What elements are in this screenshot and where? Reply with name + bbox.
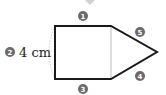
marker-3: 3 <box>78 84 88 94</box>
svg-text:1: 1 <box>81 13 86 21</box>
marker-5: 5 <box>135 27 145 37</box>
svg-text:5: 5 <box>138 29 143 37</box>
marker-1: 1 <box>78 11 88 21</box>
marker-4: 4 <box>135 71 145 81</box>
svg-text:3: 3 <box>81 86 86 94</box>
shape-diagram: 1 2 4 cm 3 4 5 <box>0 0 166 95</box>
svg-text:2: 2 <box>8 49 13 57</box>
marker-2: 2 <box>5 47 15 57</box>
svg-text:4: 4 <box>138 73 143 81</box>
top-arrow-icon <box>85 0 95 5</box>
side-length-label: 4 cm <box>19 45 51 60</box>
